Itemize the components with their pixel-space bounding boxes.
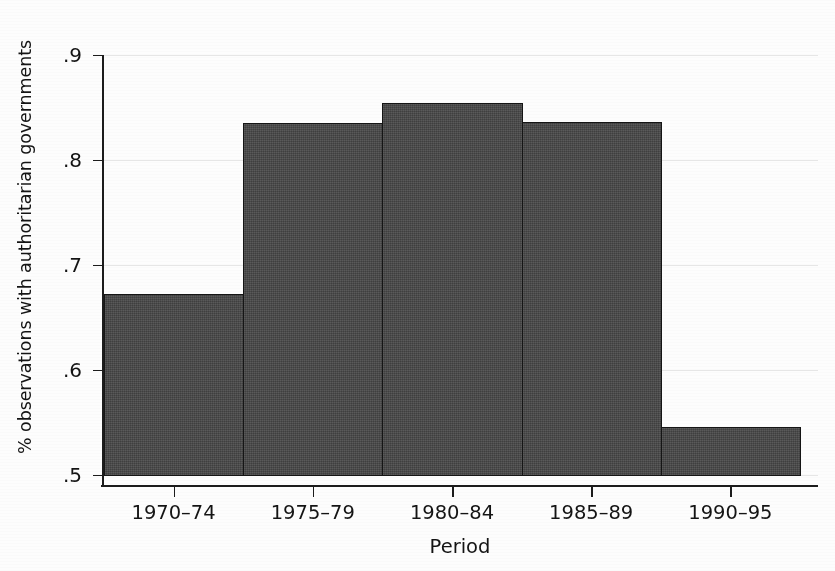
- histogram-figure: % observations with authoritarian govern…: [0, 0, 835, 571]
- y-axis-title-container: % observations with authoritarian govern…: [0, 0, 40, 500]
- x-tick-label: 1970–74: [99, 501, 249, 524]
- y-tick-mark: [93, 370, 103, 371]
- y-tick-mark: [93, 55, 103, 56]
- plot-area: 1970–741975–791980–841985–891990–95 Peri…: [102, 40, 818, 485]
- gridline: [103, 55, 818, 56]
- x-tick-mark: [452, 486, 454, 497]
- y-tick-mark: [93, 160, 103, 161]
- bar: [522, 122, 662, 476]
- x-axis-line: [101, 485, 818, 487]
- y-tick-label: .8: [36, 150, 82, 170]
- x-tick-mark: [730, 486, 732, 497]
- bar: [382, 103, 522, 476]
- bar: [661, 427, 801, 476]
- y-tick-label: .9: [36, 45, 82, 65]
- y-tick-label: .7: [36, 255, 82, 275]
- x-tick-label: 1975–79: [238, 501, 388, 524]
- y-tick-mark: [93, 265, 103, 266]
- bar: [104, 294, 244, 476]
- x-tick-mark: [591, 486, 593, 497]
- x-tick-label: 1985–89: [516, 501, 666, 524]
- y-axis-tick-labels: .5.6.7.8.9: [36, 0, 82, 571]
- y-axis-title: % observations with authoritarian govern…: [15, 17, 35, 477]
- x-tick-mark: [313, 486, 315, 497]
- y-tick-label: .6: [36, 360, 82, 380]
- bar: [243, 123, 383, 476]
- y-tick-mark: [93, 475, 103, 476]
- y-tick-label: .5: [36, 465, 82, 485]
- y-axis-line: [102, 55, 104, 485]
- x-tick-mark: [174, 486, 176, 497]
- x-tick-label: 1990–95: [655, 501, 805, 524]
- x-tick-label: 1980–84: [377, 501, 527, 524]
- x-axis-title: Period: [102, 535, 818, 558]
